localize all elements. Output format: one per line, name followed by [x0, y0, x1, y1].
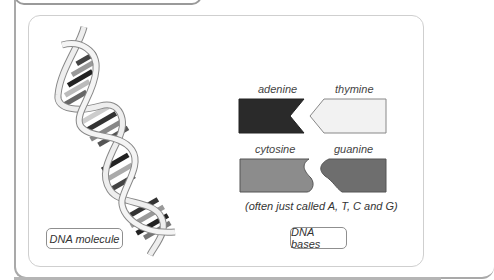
dna-helix-icon	[58, 27, 175, 255]
adenine-shape	[239, 99, 304, 133]
bases-caption: (often just called A, T, C and G)	[245, 200, 398, 212]
guanine-label: guanine	[334, 143, 373, 155]
adenine-label: adenine	[258, 83, 297, 95]
cytosine-shape	[240, 159, 313, 192]
thymine-shape	[310, 99, 386, 133]
cytosine-label: cytosine	[255, 143, 295, 155]
dna-molecule-label: DNA molecule	[46, 228, 123, 249]
dna-bases-label: DNA bases	[290, 227, 347, 249]
guanine-shape	[321, 159, 386, 192]
thymine-label: thymine	[335, 83, 374, 95]
